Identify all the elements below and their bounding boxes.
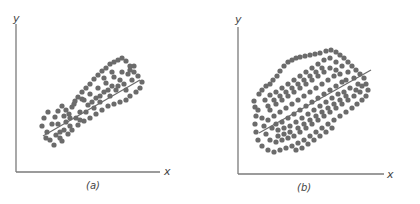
data-point <box>139 79 144 84</box>
data-point <box>323 48 328 53</box>
data-point <box>328 47 333 52</box>
data-point <box>103 65 108 70</box>
data-point <box>353 87 358 92</box>
data-point <box>329 95 334 100</box>
data-point <box>323 99 328 104</box>
data-point <box>345 69 350 74</box>
data-point <box>323 129 328 134</box>
data-point <box>301 77 306 82</box>
data-point <box>71 101 76 106</box>
data-point <box>265 117 270 122</box>
data-point <box>279 85 284 90</box>
data-point <box>341 55 346 60</box>
data-point <box>295 140 300 145</box>
data-point <box>285 81 290 86</box>
data-point <box>325 105 330 110</box>
data-point <box>79 89 84 94</box>
data-point <box>335 91 340 96</box>
data-point <box>251 98 256 103</box>
panel-b-y-label: y <box>235 14 242 25</box>
data-point <box>349 63 354 68</box>
data-point <box>311 137 316 142</box>
data-point <box>83 85 88 90</box>
data-point <box>354 101 359 106</box>
data-point <box>267 92 272 97</box>
data-point <box>333 59 338 64</box>
panel-b-caption: (b) <box>297 183 311 193</box>
data-point <box>283 105 288 110</box>
data-point <box>93 111 98 116</box>
data-point <box>273 89 278 94</box>
data-point <box>287 129 292 134</box>
data-point <box>329 125 334 130</box>
data-point <box>137 85 142 90</box>
data-point <box>309 65 314 70</box>
data-point <box>305 111 310 116</box>
data-point <box>65 131 70 136</box>
data-point <box>339 79 344 84</box>
data-point <box>313 69 318 74</box>
data-point <box>351 93 356 98</box>
data-point <box>131 63 136 68</box>
data-point <box>365 87 370 92</box>
data-point <box>259 115 264 120</box>
data-point <box>127 67 132 72</box>
data-point <box>252 121 257 126</box>
data-point <box>277 68 282 73</box>
data-point <box>325 121 330 126</box>
data-point <box>301 93 306 98</box>
data-point <box>307 52 312 57</box>
data-point <box>297 54 302 59</box>
data-point <box>267 137 272 142</box>
data-point <box>117 99 122 104</box>
data-point <box>271 97 276 102</box>
data-point <box>327 55 332 60</box>
data-point <box>273 139 278 144</box>
data-point <box>319 109 324 114</box>
data-point <box>81 97 86 102</box>
data-point <box>63 107 68 112</box>
data-point <box>253 129 258 134</box>
data-point <box>109 83 114 88</box>
data-point <box>339 63 344 68</box>
data-point <box>101 75 106 80</box>
data-point <box>95 85 100 90</box>
data-point <box>287 123 292 128</box>
data-point <box>67 123 72 128</box>
data-point <box>99 107 104 112</box>
data-point <box>331 117 336 122</box>
data-point <box>59 103 64 108</box>
data-point <box>317 133 322 138</box>
data-point <box>347 85 352 90</box>
data-point <box>321 57 326 62</box>
data-point <box>255 137 260 142</box>
data-point <box>87 81 92 86</box>
data-point <box>49 121 54 126</box>
data-point <box>265 147 270 152</box>
panel-a-caption: (a) <box>86 181 100 191</box>
scatter-figure <box>0 0 420 204</box>
data-point <box>45 109 50 114</box>
data-point <box>103 80 108 85</box>
data-point <box>291 77 296 82</box>
panel-a-x-label: x <box>164 166 171 177</box>
data-point <box>283 145 288 150</box>
data-point <box>109 69 114 74</box>
data-point <box>89 99 94 104</box>
data-point <box>117 77 122 82</box>
data-point <box>307 89 312 94</box>
data-point <box>302 53 307 58</box>
data-point <box>105 103 110 108</box>
data-point <box>313 85 318 90</box>
data-point <box>293 147 298 152</box>
data-point <box>87 115 92 120</box>
data-point <box>75 122 80 127</box>
data-point <box>281 63 286 68</box>
data-point <box>293 119 298 124</box>
panel-a-regression-line <box>43 80 140 136</box>
data-point <box>327 65 332 70</box>
data-point <box>295 125 300 130</box>
data-point <box>363 93 368 98</box>
data-point <box>261 123 266 128</box>
data-point <box>359 83 364 88</box>
